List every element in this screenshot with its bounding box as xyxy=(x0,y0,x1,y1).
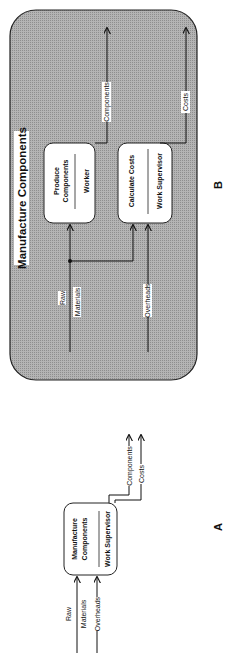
output-label-costs: Costs xyxy=(182,93,189,111)
arrow-raw-materials-a: Raw Materials xyxy=(65,577,87,653)
output-label-costs: Costs xyxy=(138,465,145,483)
diagram-a-label: A xyxy=(212,523,224,531)
diagram-b-label: B xyxy=(212,181,224,189)
output-label-components: Components xyxy=(126,446,134,486)
input-label-raw: Raw xyxy=(65,606,72,621)
diagram-b-title: Manufacture Components xyxy=(16,127,28,269)
input-label-materials: Materials xyxy=(80,599,87,628)
activity-mechanism: Work Supervisor xyxy=(104,511,112,567)
activity-name-line1: Manufacture xyxy=(71,518,78,560)
input-label-materials: Materials xyxy=(74,287,81,316)
activity-mechanism: Worker xyxy=(83,169,90,193)
idef0-diagram-figure: Manufacture Components Produce Component… xyxy=(0,0,234,657)
activity-box-manufacture-components: Manufacture Components Work Supervisor xyxy=(64,503,117,575)
arrow-overheads-a: Overheads xyxy=(93,577,101,653)
activity-name-line2: Components xyxy=(81,518,89,561)
input-label-overheads: Overheads xyxy=(144,283,151,318)
arrow-components-a: Components xyxy=(109,435,134,503)
input-label-raw: Raw xyxy=(59,290,66,305)
output-label-components: Components xyxy=(103,82,111,122)
activity-box-produce-components: Produce Components Worker xyxy=(44,143,95,223)
activity-name-line1: Calculate Costs xyxy=(128,155,135,208)
activity-mechanism: Work Supervisor xyxy=(156,153,164,209)
activity-box-calculate-costs: Calculate Costs Work Supervisor xyxy=(118,143,172,223)
activity-name-line2: Components xyxy=(62,160,70,203)
activity-name-line1: Produce xyxy=(53,167,60,195)
diagram-a: Manufacture Components Work Supervisor R… xyxy=(64,435,224,653)
diagram-b: Manufacture Components Produce Component… xyxy=(10,10,224,380)
input-label-overheads: Overheads xyxy=(94,596,101,631)
